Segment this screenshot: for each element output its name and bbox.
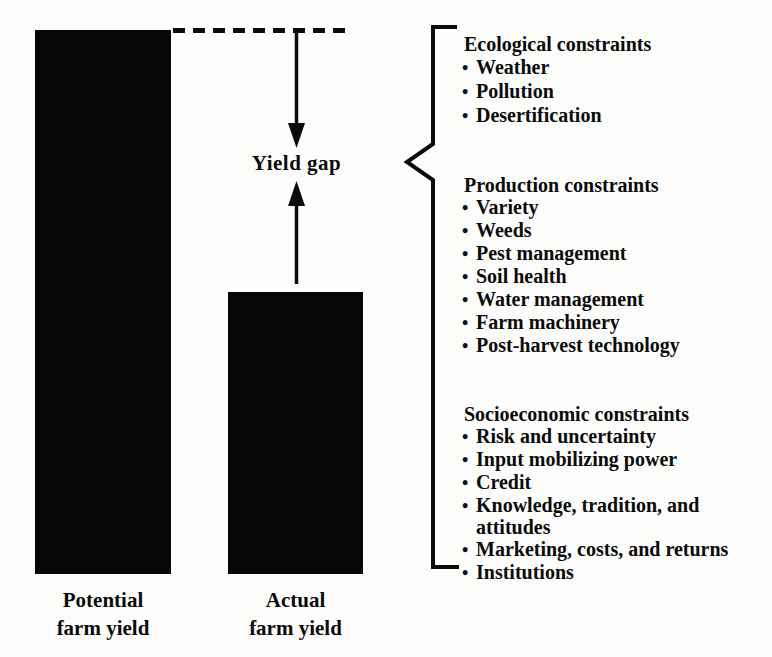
bullet-icon: • xyxy=(462,472,476,494)
list-item: • Institutions xyxy=(462,561,762,584)
list-item: • Pest management xyxy=(462,242,762,265)
yield-gap-label: Yield gap xyxy=(233,151,360,176)
list-item-label: Post-harvest technology xyxy=(476,334,762,356)
socioeconomic-constraints-heading: Socioeconomic constraints xyxy=(464,403,762,425)
ecological-constraints-section: Ecological constraints • Weather • Pollu… xyxy=(462,33,762,128)
list-item: • Marketing, costs, and returns xyxy=(462,538,762,561)
production-constraints-section: Production constraints • Variety • Weeds… xyxy=(462,174,762,357)
bullet-icon: • xyxy=(462,495,476,517)
bullet-icon: • xyxy=(462,289,476,311)
bullet-icon: • xyxy=(462,197,476,219)
list-item-label: Water management xyxy=(476,288,762,310)
list-item-label: Weeds xyxy=(476,219,762,241)
list-item: • Risk and uncertainty xyxy=(462,425,762,448)
list-item: • Desertification xyxy=(462,104,762,128)
list-item: • Weeds xyxy=(462,219,762,242)
actual-bar-label-line2: farm yield xyxy=(228,614,363,642)
bullet-icon: • xyxy=(462,105,476,128)
list-item-label: Credit xyxy=(476,471,762,493)
list-item-label: Input mobilizing power xyxy=(476,448,762,470)
list-item-label: Knowledge, tradition, and attitudes xyxy=(476,494,762,538)
potential-bar-label-line1: Potential xyxy=(35,586,171,614)
bullet-icon: • xyxy=(462,562,476,584)
list-item-label: Risk and uncertainty xyxy=(476,425,762,447)
actual-bar-label-line1: Actual xyxy=(228,586,363,614)
bullet-icon: • xyxy=(462,335,476,357)
list-item-label: Soil health xyxy=(476,265,762,287)
production-constraints-heading: Production constraints xyxy=(464,174,762,196)
list-item-label: Desertification xyxy=(476,104,762,127)
list-item-label: Weather xyxy=(476,56,762,79)
list-item: • Variety xyxy=(462,196,762,219)
list-item-label: Institutions xyxy=(476,561,762,583)
list-item-label: Variety xyxy=(476,196,762,218)
potential-bar-label: Potential farm yield xyxy=(35,586,171,642)
down-arrowhead-icon xyxy=(288,123,305,148)
list-item: • Farm machinery xyxy=(462,311,762,334)
constraints-brace xyxy=(407,27,459,567)
list-item: • Weather xyxy=(462,56,762,80)
list-item-label: Pollution xyxy=(476,80,762,103)
list-item: • Input mobilizing power xyxy=(462,448,762,471)
list-item: • Credit xyxy=(462,471,762,494)
bullet-icon: • xyxy=(462,449,476,471)
bullet-icon: • xyxy=(462,539,476,561)
ecological-constraints-heading: Ecological constraints xyxy=(464,33,762,56)
socioeconomic-constraints-section: Socioeconomic constraints • Risk and unc… xyxy=(462,403,762,584)
bullet-icon: • xyxy=(462,220,476,242)
bullet-icon: • xyxy=(462,243,476,265)
list-item-label: Marketing, costs, and returns xyxy=(476,538,762,560)
actual-bar-label: Actual farm yield xyxy=(228,586,363,642)
list-item: • Water management xyxy=(462,288,762,311)
bullet-icon: • xyxy=(462,57,476,80)
list-item-label: Farm machinery xyxy=(476,311,762,333)
yield-gap-figure: Yield gap Potential farm yield Actual fa… xyxy=(0,0,772,657)
list-item: • Knowledge, tradition, and attitudes xyxy=(462,494,762,538)
bullet-icon: • xyxy=(462,81,476,104)
potential-bar-label-line2: farm yield xyxy=(35,614,171,642)
bullet-icon: • xyxy=(462,266,476,288)
list-item: • Post-harvest technology xyxy=(462,334,762,357)
list-item: • Pollution xyxy=(462,80,762,104)
list-item: • Soil health xyxy=(462,265,762,288)
bullet-icon: • xyxy=(462,426,476,448)
bullet-icon: • xyxy=(462,312,476,334)
list-item-label: Pest management xyxy=(476,242,762,264)
up-arrowhead-icon xyxy=(288,181,305,206)
